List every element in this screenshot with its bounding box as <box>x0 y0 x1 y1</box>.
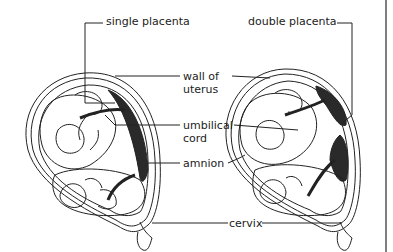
left-uterus-single-placenta <box>26 73 160 251</box>
label-wall-of-uterus: wall of uterus <box>183 70 219 96</box>
leader-umbilical-left <box>105 115 180 125</box>
label-wall-of-uterus-line2: uterus <box>183 83 219 96</box>
label-amnion: amnion <box>183 157 224 170</box>
label-wall-of-uterus-line1: wall of <box>183 70 219 83</box>
label-umbilical-cord-line2: cord <box>183 132 233 145</box>
label-single-placenta: single placenta <box>106 15 190 28</box>
label-umbilical-cord: umbilical cord <box>183 119 233 145</box>
label-cervix: cervix <box>229 217 262 230</box>
label-umbilical-cord-line1: umbilical <box>183 119 233 132</box>
label-double-placenta: double placenta <box>248 15 337 28</box>
leader-wall-right <box>232 76 270 78</box>
leader-umbilical-right <box>234 125 298 130</box>
